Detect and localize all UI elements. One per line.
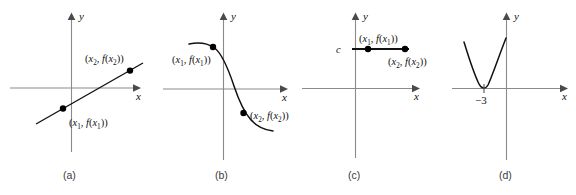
panel-c-caption: (c) (348, 169, 360, 181)
panel-b-point-x2 (240, 110, 246, 116)
panel-c: y x c (x1, f(x1)) (x2, f(x2)) (c) (302, 10, 427, 181)
panel-a-x-axis (10, 84, 141, 92)
panel-b-label-x1: (x1, f(x1)) (172, 54, 211, 68)
panel-b-caption: (b) (215, 169, 228, 181)
panel-c-label-x1: (x1, f(x1)) (359, 33, 398, 47)
panel-d-caption: (d) (499, 169, 512, 181)
four-panel-figure: y x (x2, f(x2)) (x1, f(x1)) (a) y (0, 0, 576, 195)
panel-a-point-x1 (60, 105, 66, 111)
panel-c-x-axis (302, 85, 420, 93)
panel-a-y-axis (68, 13, 76, 153)
panel-c-y-axis-label: y (362, 10, 368, 22)
panel-b: y x (x1, f(x1)) (x2, f(x2)) (b) (163, 10, 289, 181)
panel-c-x-axis-label: x (413, 90, 419, 102)
panel-a-x-axis-label: x (135, 90, 141, 102)
panel-a-caption: (a) (63, 169, 76, 181)
panel-b-point-x1 (210, 44, 216, 50)
panel-a-point-x2 (127, 67, 133, 73)
panel-d-parabola (464, 38, 506, 88)
panel-d: y x −3 (d) (452, 10, 568, 181)
panel-a-increasing-line (36, 63, 143, 124)
panel-a-label-x1: (x1, f(x1)) (69, 117, 108, 131)
panel-b-y-axis-label: y (230, 10, 236, 22)
panel-c-constant-label: c (336, 44, 341, 55)
panel-b-y-axis (220, 13, 228, 161)
panel-d-y-axis-label: y (513, 10, 519, 22)
panel-a-y-axis-label: y (78, 10, 84, 22)
panel-c-point-x2 (402, 46, 408, 52)
panel-d-x-axis-label: x (561, 90, 567, 102)
panel-a: y x (x2, f(x2)) (x1, f(x1)) (a) (10, 10, 143, 181)
figure-container: y x (x2, f(x2)) (x1, f(x1)) (a) y (0, 0, 576, 195)
panel-d-y-axis (503, 13, 511, 161)
panel-b-x-axis (163, 85, 288, 93)
panel-d-vertex-tick-label: −3 (475, 94, 487, 106)
panel-b-label-x2: (x2, f(x2)) (250, 110, 289, 124)
panel-a-label-x2: (x2, f(x2)) (85, 53, 124, 67)
panel-c-point-x1 (365, 46, 371, 52)
panel-c-label-x2: (x2, f(x2)) (388, 56, 427, 70)
panel-d-x-axis (452, 85, 568, 93)
panel-b-x-axis-label: x (281, 91, 287, 103)
